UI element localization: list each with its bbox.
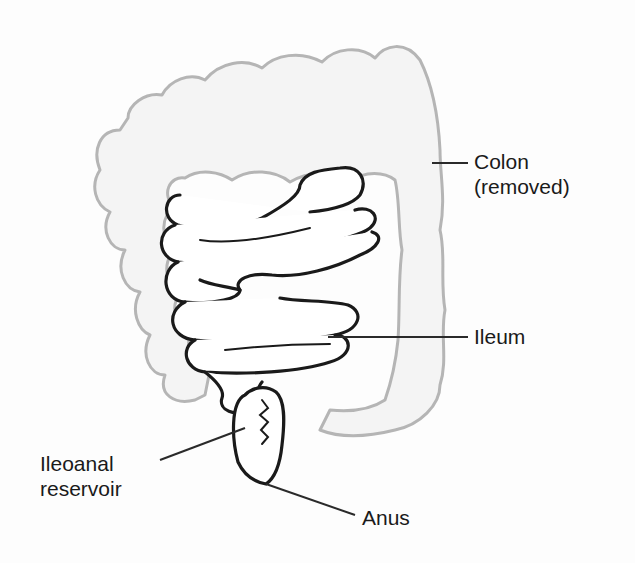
reservoir-leader-line (160, 428, 245, 460)
anus-label-text: Anus (362, 505, 410, 530)
ileum-label-text: Ileum (474, 324, 525, 349)
anus-label: Anus (362, 505, 410, 530)
anus-leader-line (266, 484, 355, 515)
ileoanal-reservoir (234, 388, 284, 484)
colon-label-line2: (removed) (474, 174, 570, 199)
reservoir-label: Ileoanal reservoir (40, 451, 122, 501)
reservoir-label-line1: Ileoanal (40, 451, 122, 476)
ileum-label: Ileum (474, 324, 525, 349)
reservoir-label-line2: reservoir (40, 476, 122, 501)
colon-label: Colon (removed) (474, 149, 570, 199)
colon-label-line1: Colon (474, 149, 570, 174)
